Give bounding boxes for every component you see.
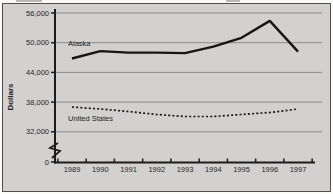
x-tick-label: 1992 [148, 165, 165, 174]
y-tick-label: 0 [45, 158, 49, 167]
x-tick-label: 1993 [177, 165, 194, 174]
x-tick-label: 1995 [233, 165, 250, 174]
y-tick-label: 50,000 [26, 38, 49, 47]
y-tick-label: 56,000 [26, 9, 49, 18]
scanned-chart-page: 56,00050,00044,00038,00032,0000198919901… [0, 0, 333, 194]
x-tick-label: 1989 [64, 165, 81, 174]
x-tick-label: 1994 [205, 165, 222, 174]
y-tick-label: 38,000 [26, 98, 49, 107]
x-tick-label: 1991 [120, 165, 137, 174]
y-axis-title: Dollars [6, 83, 15, 111]
alaska-line [72, 21, 298, 59]
income-line-chart: 56,00050,00044,00038,00032,0000198919901… [0, 0, 333, 194]
series-label: Alaska [68, 39, 91, 48]
y-tick-label: 44,000 [26, 68, 49, 77]
x-tick-label: 1990 [92, 165, 109, 174]
x-tick-label: 1996 [261, 165, 278, 174]
series-label: United States [68, 114, 113, 123]
x-tick-label: 1997 [290, 165, 307, 174]
y-tick-label: 32,000 [26, 127, 49, 136]
